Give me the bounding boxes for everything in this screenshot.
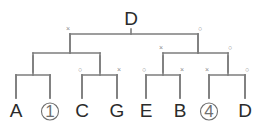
node-right-level2	[163, 34, 228, 72]
leaf-leaf-b: B	[174, 75, 187, 121]
node-leaf-group-3	[146, 56, 180, 98]
leaves-layer: A1CGEB4D	[10, 75, 252, 121]
cross-marker-icon: ×	[66, 25, 70, 32]
cross-marker-icon: ×	[180, 66, 184, 73]
leaf-label: E	[140, 100, 153, 121]
root-layer: D	[124, 8, 138, 29]
circle-marker-icon: ○	[142, 66, 146, 73]
tree-diagram: ×○×○○×○××○ A1CGEB4D D	[0, 0, 260, 125]
leaf-leaf-4: 4	[201, 75, 218, 121]
leaf-label: 1	[45, 102, 54, 121]
root-node-label: D	[124, 8, 138, 29]
leaf-leaf-c: C	[75, 75, 89, 121]
circle-marker-icon: ○	[78, 66, 82, 73]
node-leaf-group-1	[16, 56, 50, 98]
leaf-leaf-d: D	[238, 75, 252, 121]
leaf-label: G	[110, 100, 125, 121]
node-root	[70, 29, 198, 53]
leaf-label: C	[75, 100, 89, 121]
cross-marker-icon: ×	[159, 44, 163, 51]
leaf-label: D	[238, 100, 252, 121]
cross-marker-icon: ×	[205, 66, 209, 73]
circle-marker-icon: ○	[198, 25, 202, 32]
leaf-label: B	[174, 100, 187, 121]
leaf-leaf-g: G	[110, 75, 125, 121]
tree-canvas: ×○×○○×○××○ A1CGEB4D D	[0, 0, 260, 125]
circle-marker-icon: ○	[228, 44, 232, 51]
leaf-leaf-a: A	[10, 75, 23, 121]
leaf-leaf-1: 1	[42, 75, 59, 121]
node-left-level2	[33, 34, 100, 72]
leaf-label: A	[10, 100, 23, 121]
markers-layer: ×○×○○×○××○	[66, 25, 249, 73]
leaf-label: 4	[204, 102, 213, 121]
leaf-leaf-e: E	[140, 75, 153, 121]
node-leaf-group-2	[82, 56, 117, 98]
node-leaf-group-4	[209, 56, 245, 98]
circle-marker-icon: ○	[245, 66, 249, 73]
cross-marker-icon: ×	[117, 66, 121, 73]
